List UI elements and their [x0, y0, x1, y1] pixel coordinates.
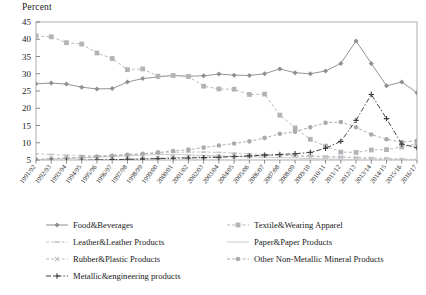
series-0 — [34, 38, 420, 95]
y-axis-tick-label: 20 — [22, 103, 32, 113]
legend-label-non-metallic: Other Non-Metallic Mineral Products — [254, 254, 384, 264]
legend-item-food-beverages[interactable]: Food&Beverages — [45, 216, 181, 233]
y-axis-tick-label: 10 — [22, 138, 32, 148]
y-axis-tick-label: 45 — [22, 17, 32, 27]
legend-column-left: Food&Beverages Leather&Leather Products … — [45, 216, 181, 284]
legend-key-leather — [45, 236, 69, 248]
legend-key-non-metallic — [226, 253, 250, 265]
legend-column-right: Textile&Wearing Apparel Paper&Paper Prod… — [226, 216, 384, 267]
legend-key-rubber-plastic — [45, 253, 69, 265]
chart-plot-area: 510152025303540451991/921992/931993/9419… — [0, 0, 426, 215]
legend-item-rubber-plastic[interactable]: Rubber&Plastic Products — [45, 250, 181, 267]
legend-item-paper[interactable]: Paper&Paper Products — [226, 233, 384, 250]
legend-key-food-beverages — [45, 219, 69, 231]
y-axis-tick-label: 25 — [22, 86, 32, 96]
series-1 — [34, 33, 420, 154]
legend-item-textile[interactable]: Textile&Wearing Apparel — [226, 216, 384, 233]
legend-label-metallic: Metallic&engineering products — [73, 271, 181, 281]
chart-legend: Food&Beverages Leather&Leather Products … — [0, 216, 426, 295]
y-axis-tick-label: 30 — [22, 69, 32, 79]
legend-label-rubber-plastic: Rubber&Plastic Products — [73, 254, 160, 264]
legend-item-leather[interactable]: Leather&Leather Products — [45, 233, 181, 250]
series-5 — [34, 120, 420, 162]
legend-item-non-metallic[interactable]: Other Non-Metallic Mineral Products — [226, 250, 384, 267]
legend-label-paper: Paper&Paper Products — [254, 237, 332, 247]
legend-item-metallic[interactable]: Metallic&engineering products — [45, 267, 181, 284]
legend-label-food-beverages: Food&Beverages — [73, 220, 133, 230]
legend-key-metallic — [45, 270, 69, 282]
y-axis-tick-label: 40 — [22, 34, 32, 44]
legend-label-textile: Textile&Wearing Apparel — [254, 220, 343, 230]
legend-label-leather: Leather&Leather Products — [73, 237, 164, 247]
series-6 — [33, 92, 419, 164]
x-axis-tick-label: 2016/17 — [399, 163, 418, 185]
legend-key-paper — [226, 236, 250, 248]
chart-container: Percent 510152025303540451991/921992/931… — [0, 0, 426, 295]
legend-key-textile — [226, 219, 250, 231]
y-axis-tick-label: 35 — [22, 52, 32, 62]
y-axis-tick-label: 15 — [22, 121, 32, 131]
